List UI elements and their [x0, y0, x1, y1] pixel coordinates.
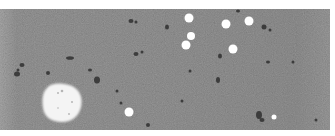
large-white-blob [42, 84, 81, 122]
debris-speck [88, 69, 92, 72]
debris-speck [135, 21, 138, 24]
debris-speck [14, 72, 20, 77]
white-particle [229, 45, 238, 54]
white-particle [185, 14, 194, 23]
micrograph-image: Grayscale micrograph: noisy gray field w… [0, 0, 335, 136]
debris-speck [292, 61, 295, 64]
white-particle [222, 20, 231, 29]
debris-speck [262, 25, 267, 30]
white-particle [187, 32, 195, 40]
blob-inclusion [57, 92, 59, 94]
debris-speck [17, 69, 20, 72]
debris-speck [120, 102, 123, 105]
blob-inclusion [68, 113, 70, 115]
blob-inclusion [57, 107, 59, 109]
debris-speck [218, 54, 222, 59]
debris-speck [236, 10, 240, 13]
debris-speck [66, 56, 74, 60]
debris-speck [20, 63, 25, 67]
debris-speck [134, 52, 139, 56]
debris-speck [216, 77, 220, 83]
debris-speck [260, 118, 265, 122]
debris-speck [256, 111, 262, 119]
white-particle [182, 41, 191, 50]
debris-speck [189, 70, 192, 73]
white-particle [272, 115, 277, 120]
micrograph-canvas [0, 0, 335, 136]
blob-inclusion [71, 101, 73, 103]
debris-speck [146, 123, 150, 127]
debris-speck [141, 51, 144, 54]
debris-speck [315, 119, 318, 122]
debris-speck [269, 29, 272, 32]
white-particle [245, 17, 254, 26]
blob-inclusion [61, 90, 64, 93]
debris-speck [116, 90, 119, 93]
blob-shape [42, 84, 81, 122]
white-particle [125, 108, 134, 117]
debris-speck [165, 25, 169, 30]
debris-speck [94, 77, 100, 84]
debris-speck [46, 71, 50, 75]
debris-speck [266, 61, 270, 64]
debris-speck [181, 100, 184, 103]
debris-speck [129, 19, 134, 23]
